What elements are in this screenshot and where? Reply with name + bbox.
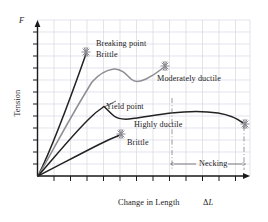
starburst-marker-brittle-high	[82, 47, 91, 57]
curve-brittle-high	[38, 54, 86, 176]
y-axis	[33, 20, 40, 176]
stress-strain-figure: F Tension Change in Length ΔL Breaking p…	[0, 0, 268, 222]
annotation-brittle-bottom: Brittle	[127, 139, 149, 147]
starburst-marker-brittle-low	[117, 129, 126, 139]
annotation-yield-point: Yield point	[106, 103, 144, 111]
x-axis-title: Change in Length	[118, 199, 180, 207]
annotation-necking: Necking	[199, 160, 227, 168]
y-axis-symbol: F	[19, 17, 24, 25]
annotation-highly-ductile: Highly ductile	[134, 121, 182, 129]
starburst-marker-moderately-ductile	[161, 61, 170, 71]
y-axis-title: Tension	[14, 73, 22, 133]
annotation-brittle-top: Brittle	[96, 51, 118, 59]
starburst-marker-highly-ductile	[241, 119, 250, 129]
x-axis-variable: L	[209, 198, 214, 207]
annotation-breaking-point: Breaking point	[96, 40, 146, 48]
x-axis	[38, 173, 251, 181]
x-axis-symbol: ΔL	[203, 199, 213, 207]
annotation-moderately-ductile: Moderately ductile	[157, 75, 221, 83]
